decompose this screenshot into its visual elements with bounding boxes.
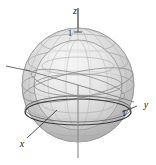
sphere-plot-canvas: z 1 y 1 x [0, 0, 156, 165]
y-axis-label: y [143, 99, 149, 110]
sphere-3d-figure: z 1 y 1 x [0, 0, 156, 165]
z-tick-label-one: 1 [68, 29, 72, 38]
x-axis-label: x [19, 138, 25, 149]
y-tick-label-one: 1 [122, 109, 126, 118]
z-axis-label: z [72, 5, 77, 16]
